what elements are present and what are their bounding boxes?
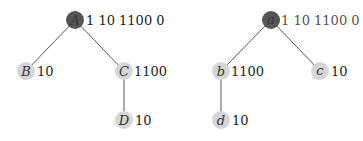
node-d-label: d <box>217 113 225 128</box>
tree-diagram: A 1 10 1100 0 B 10 C 1100 D 10 a 1 10 11… <box>0 0 363 141</box>
node-b-annotation: 1100 <box>231 64 264 79</box>
node-b-label: b <box>217 64 225 79</box>
node-C-annotation: 1100 <box>134 64 167 79</box>
right-tree: a 1 10 1100 0 b 1100 c 10 d 10 <box>212 11 360 129</box>
left-tree: A 1 10 1100 0 B 10 C 1100 D 10 <box>17 11 167 129</box>
diagram-canvas: A 1 10 1100 0 B 10 C 1100 D 10 a 1 10 11… <box>0 0 363 141</box>
node-c-annotation: 10 <box>331 64 348 79</box>
node-B-label: B <box>20 64 31 79</box>
node-C-label: C <box>119 64 129 79</box>
node-D-label: D <box>118 113 130 128</box>
node-c-label: c <box>316 63 324 78</box>
node-d-annotation: 10 <box>232 113 249 128</box>
node-B-annotation: 10 <box>37 64 54 79</box>
node-a-annotation: 1 10 1100 0 <box>281 13 360 28</box>
node-A-label: A <box>69 13 79 28</box>
node-D-annotation: 10 <box>135 113 152 128</box>
node-A-annotation: 1 10 1100 0 <box>86 13 165 28</box>
node-a-label: a <box>267 12 275 27</box>
